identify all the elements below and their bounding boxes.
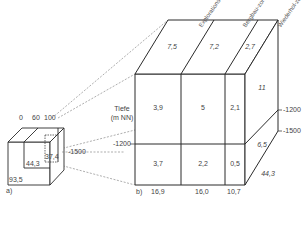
top-value-2: 7,2 (209, 43, 219, 51)
bottom-total-3: 10,7 (227, 188, 241, 196)
small-cube-caption: a) (6, 187, 12, 195)
side-value-bottom-edge: 44,3 (261, 170, 275, 178)
small-cube-tick-60: 60 (32, 114, 40, 122)
top-value-3: 2,7 (245, 43, 255, 51)
bottom-total-2: 16,0 (195, 188, 209, 196)
small-cube-value-44-3: 44,3 (26, 160, 40, 168)
small-cube-value-37-4: 37,4 (45, 153, 59, 161)
small-cube-tick-100: 100 (44, 114, 56, 122)
depth-axis-label: Tiefe (m NN) (108, 104, 136, 122)
depth-left-1200: -1200 (113, 140, 131, 148)
large-cube-caption: b) (136, 188, 142, 196)
upper-row-value-3: 2,1 (230, 104, 240, 112)
small-cube-depth-label: -1500 (68, 148, 86, 156)
top-value-1: 7,5 (167, 43, 177, 51)
depth-axis-label-line1: Tiefe (108, 104, 136, 113)
lower-row-value-3: 0,5 (230, 160, 240, 168)
upper-row-value-2: 5 (201, 104, 205, 112)
lower-row-value-1: 3,7 (153, 160, 163, 168)
upper-row-value-1: 3,9 (153, 104, 163, 112)
depth-right-1200: -1200 (283, 106, 301, 114)
depth-axis-label-line2: (m NN) (108, 113, 136, 122)
depth-right-1500: -1500 (283, 127, 301, 135)
side-value-lower: 6,5 (257, 141, 267, 149)
lower-row-value-2: 2,2 (198, 160, 208, 168)
bottom-total-1: 16,9 (151, 188, 165, 196)
small-cube-tick-0: 0 (19, 114, 23, 122)
side-value-upper: 11 (258, 84, 265, 92)
small-cube-value-93-5: 93,5 (9, 176, 23, 184)
